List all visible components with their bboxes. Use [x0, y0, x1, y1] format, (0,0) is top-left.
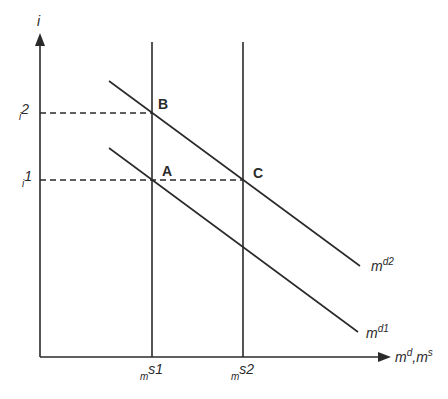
tick-label-ms2: ms2: [231, 361, 254, 382]
tick-label-i2: i2: [19, 101, 29, 122]
money-demand-curve-1: [109, 148, 358, 332]
point-label-c: C: [253, 165, 263, 181]
tick-label-ms1: ms1: [140, 361, 163, 382]
x-axis-label: md,ms: [395, 347, 433, 365]
tick-label-i1: i1: [22, 168, 32, 189]
x-axis-arrow-icon: [378, 352, 391, 362]
point-label-b: B: [158, 96, 168, 112]
money-market-diagram: i md,ms i2 i1 ms1 ms2 md2 md1 B A C: [0, 0, 448, 399]
label-md2: md2: [371, 256, 394, 274]
label-md1: md1: [366, 323, 389, 341]
y-axis-label: i: [37, 13, 41, 29]
point-label-a: A: [162, 163, 172, 179]
money-demand-curve-2: [109, 81, 360, 266]
y-axis-arrow-icon: [35, 33, 45, 46]
